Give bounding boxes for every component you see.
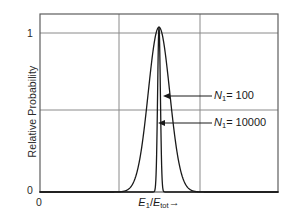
- figure-container: Relative Probability 1 0 0 E1/Etot→ N1= …: [0, 0, 291, 223]
- y-tick-label-1: 1: [27, 27, 33, 39]
- annotation-n1-100-value: = 100: [226, 89, 254, 101]
- x-axis-label: E1/Etot→: [94, 196, 224, 208]
- x-tick-label-0: 0: [36, 196, 42, 208]
- y-tick-label-0: 0: [27, 184, 33, 196]
- annotation-n1-10000-sub: 1: [222, 121, 226, 130]
- annotation-n1-100: N1= 100: [214, 89, 254, 101]
- x-axis-label-numerator-sub: 1: [146, 201, 150, 210]
- x-axis-label-denominator-sub: tot: [160, 201, 168, 210]
- annotation-n1-10000-symbol: N: [214, 116, 222, 128]
- annotation-n1-10000: N1= 10000: [214, 116, 266, 128]
- annotation-n1-100-sub: 1: [222, 94, 226, 103]
- x-axis-label-arrow: →: [169, 196, 180, 208]
- x-axis-label-numerator: E: [138, 196, 145, 208]
- annotation-n1-100-symbol: N: [214, 89, 222, 101]
- annotation-n1-10000-value: = 10000: [226, 116, 266, 128]
- relative-probability-chart: [0, 0, 291, 223]
